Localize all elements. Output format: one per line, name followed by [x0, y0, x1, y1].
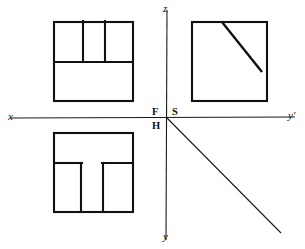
axis-label-y-prime: y′ [288, 110, 295, 121]
side-view-diagonal [222, 22, 262, 72]
axis-label-x: x [8, 111, 13, 122]
top-view-outline [54, 133, 133, 212]
side-view-group [192, 22, 267, 101]
axis-label-z: z [163, 3, 167, 14]
plane-label-side: S [172, 107, 178, 118]
front-view-group [54, 21, 133, 101]
side-view-outline [192, 22, 267, 101]
oblique-axis-line [167, 118, 281, 233]
vertical-axis-line [166, 10, 167, 240]
plane-label-horizontal: H [152, 121, 160, 132]
plane-label-frontal: F [152, 107, 158, 118]
top-view-group [54, 133, 133, 212]
axis-label-y: y [163, 231, 168, 242]
orthographic-projection-figure: x y′ z y F S H [0, 0, 305, 249]
